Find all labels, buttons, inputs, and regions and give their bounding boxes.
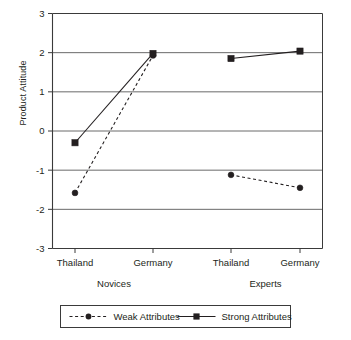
x-category-label: Thailand <box>213 257 249 268</box>
data-point-strong-attributes <box>72 140 78 146</box>
data-point-strong-attributes <box>228 55 234 61</box>
series-lines-group <box>75 51 300 193</box>
y-tick-label: 3 <box>39 8 44 19</box>
y-axis-title: Product Attitude <box>18 23 28 163</box>
x-category-label: Germany <box>280 257 319 268</box>
data-point-strong-attributes <box>297 48 303 54</box>
x-tick-group <box>75 249 300 254</box>
series-line-strong-attributes <box>75 53 153 142</box>
chart-figure: Product Attitude 3210-1-2-3 ThailandGerm… <box>0 0 351 340</box>
legend-marker-square <box>193 313 199 319</box>
y-tick-label: 0 <box>39 125 44 136</box>
series-line-weak-attributes <box>231 175 300 188</box>
x-group-label: Experts <box>249 278 281 289</box>
legend-label: Strong Attributes <box>222 311 292 322</box>
gridlines-group <box>53 53 323 210</box>
chart-canvas: 3210-1-2-3 ThailandGermanyThailandGerman… <box>0 0 351 340</box>
y-tick-label: -2 <box>36 204 44 215</box>
y-tick-label: -1 <box>36 165 44 176</box>
y-tick-label: 2 <box>39 47 44 58</box>
series-markers-group <box>72 48 303 196</box>
data-point-weak-attributes <box>297 185 303 191</box>
x-group-label: Novices <box>97 278 131 289</box>
x-category-label: Thailand <box>57 257 93 268</box>
x-category-label: Germany <box>133 257 172 268</box>
y-tick-label: 1 <box>39 86 44 97</box>
series-line-weak-attributes <box>75 55 153 192</box>
category-label-group: ThailandGermanyThailandGermany <box>57 257 320 268</box>
data-point-weak-attributes <box>228 172 234 178</box>
legend: Weak AttributesStrong Attributes <box>61 306 292 328</box>
series-line-strong-attributes <box>231 51 300 58</box>
y-tick-label: -3 <box>36 243 44 254</box>
group-label-group: NovicesExperts <box>97 278 282 289</box>
legend-marker-circle <box>86 314 92 320</box>
y-tick-group: 3210-1-2-3 <box>36 8 52 254</box>
data-point-weak-attributes <box>72 190 78 196</box>
legend-label: Weak Attributes <box>114 311 181 322</box>
data-point-strong-attributes <box>150 50 156 56</box>
